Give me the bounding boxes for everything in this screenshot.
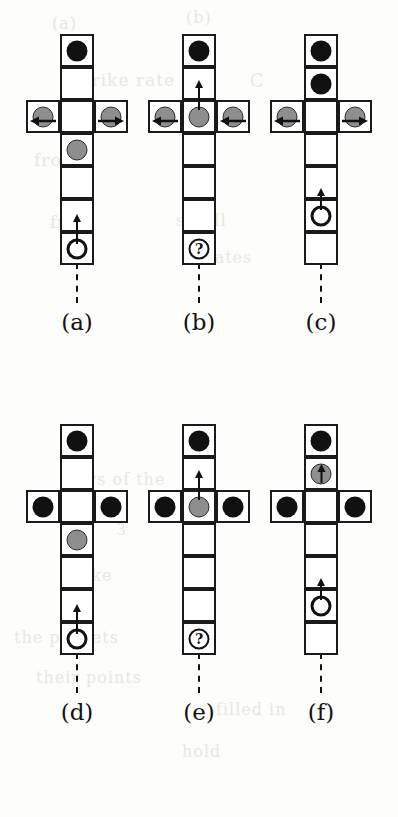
vertical-cell (182, 424, 216, 457)
vertical-lane (60, 424, 94, 655)
horizontal-cell-left (270, 490, 304, 523)
vertical-cell (60, 199, 94, 232)
vertical-cell (304, 34, 338, 67)
horizontal-cell-left (26, 100, 60, 133)
horizontal-cell-left (26, 490, 60, 523)
token-open (311, 595, 332, 616)
vertical-cell (304, 589, 338, 622)
horizontal-cell-right (216, 100, 250, 133)
vertical-lane: ? (182, 34, 216, 265)
vertical-cell (182, 67, 216, 100)
token-gray (189, 106, 210, 127)
token-gray (67, 529, 88, 550)
token-open (311, 205, 332, 226)
vertical-cell (182, 589, 216, 622)
vertical-cell (182, 556, 216, 589)
vertical-cell (304, 457, 338, 490)
token-black (345, 496, 366, 517)
diagram-panel-f: (f) (258, 418, 384, 738)
vertical-cell (304, 622, 338, 655)
vertical-lane (60, 34, 94, 265)
token-gray (311, 463, 332, 484)
dashed-entry-lane (76, 653, 78, 693)
dashed-entry-lane (198, 653, 200, 693)
vertical-cell (182, 166, 216, 199)
horizontal-cell-left (148, 100, 182, 133)
diagram-panel-b: ?(b) (136, 28, 262, 348)
token-gray (155, 106, 176, 127)
token-black (189, 40, 210, 61)
panel-caption: (f) (258, 699, 384, 725)
token-open (67, 628, 88, 649)
vertical-cell (304, 199, 338, 232)
horizontal-cell-left (148, 490, 182, 523)
vertical-cell (60, 424, 94, 457)
diagram-panel-c: (c) (258, 28, 384, 348)
vertical-cell (182, 199, 216, 232)
vertical-cell (304, 424, 338, 457)
diagram-panel-e: ?(e) (136, 418, 262, 738)
dashed-entry-lane (320, 263, 322, 303)
vertical-cell (304, 523, 338, 556)
horizontal-cell-left (270, 100, 304, 133)
vertical-lane (304, 34, 338, 265)
vertical-cell (60, 34, 94, 67)
token-open (67, 238, 88, 259)
token-black (311, 73, 332, 94)
vertical-cell (60, 232, 94, 265)
dashed-entry-lane (76, 263, 78, 303)
vertical-cell (60, 622, 94, 655)
junction-side-walls (60, 490, 94, 523)
token-gray (67, 139, 88, 160)
vertical-cell (182, 133, 216, 166)
token-gray (277, 106, 298, 127)
token-black (101, 496, 122, 517)
token-black (311, 430, 332, 451)
vertical-cell (304, 166, 338, 199)
vertical-cell (304, 556, 338, 589)
vertical-cell (60, 589, 94, 622)
vertical-cell (60, 523, 94, 556)
vertical-cell: ? (182, 622, 216, 655)
vertical-cell (60, 556, 94, 589)
token-black (67, 430, 88, 451)
horizontal-cell-right (216, 490, 250, 523)
junction-token-overlay (182, 100, 216, 133)
horizontal-cell-right (94, 100, 128, 133)
horizontal-cell-right (94, 490, 128, 523)
panel-caption: (d) (14, 699, 140, 725)
token-black (311, 40, 332, 61)
panel-caption: (e) (136, 699, 262, 725)
vertical-cell (60, 457, 94, 490)
diagram-panel-a: (a) (14, 28, 140, 348)
panel-caption: (a) (14, 309, 140, 335)
token-black (155, 496, 176, 517)
junction-side-walls (304, 100, 338, 133)
panel-caption: (c) (258, 309, 384, 335)
vertical-lane: ? (182, 424, 216, 655)
token-gray (223, 106, 244, 127)
token-black (67, 40, 88, 61)
vertical-lane (304, 424, 338, 655)
vertical-cell (182, 34, 216, 67)
vertical-cell (60, 133, 94, 166)
token-black (33, 496, 54, 517)
junction-token-overlay (182, 490, 216, 523)
vertical-cell (60, 67, 94, 100)
dashed-entry-lane (198, 263, 200, 303)
vertical-cell (304, 232, 338, 265)
vertical-cell (182, 457, 216, 490)
bleed-text: hold (182, 742, 221, 761)
token-black (223, 496, 244, 517)
vertical-cell (304, 67, 338, 100)
token-query: ? (189, 628, 210, 649)
bleed-text: (b) (186, 8, 212, 27)
arrow-up-icon (317, 464, 326, 483)
token-black (277, 496, 298, 517)
token-gray (33, 106, 54, 127)
horizontal-cell-right (338, 100, 372, 133)
token-gray (189, 496, 210, 517)
junction-side-walls (304, 490, 338, 523)
token-black (189, 430, 210, 451)
vertical-cell (182, 523, 216, 556)
